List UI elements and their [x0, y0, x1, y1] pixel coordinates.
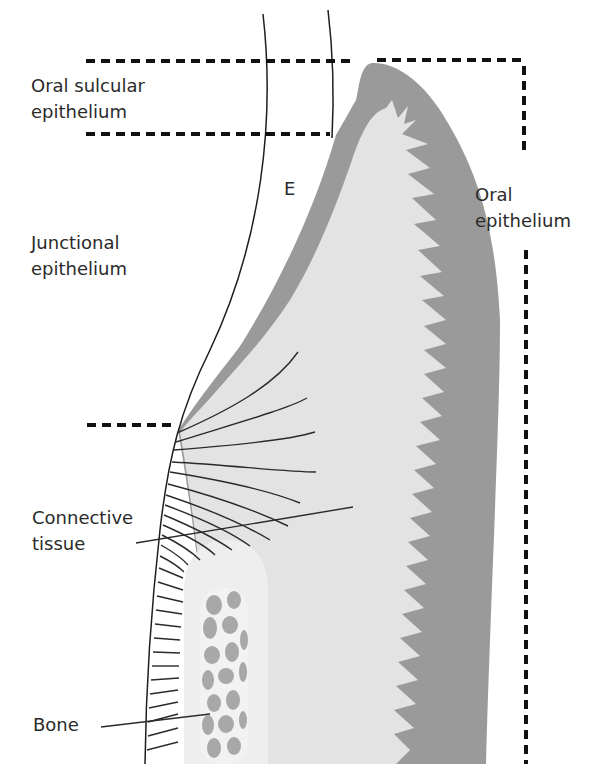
- label-line: epithelium: [31, 99, 145, 125]
- connective-tissue-label: Connective tissue: [32, 505, 133, 557]
- label-line: Bone: [33, 712, 79, 738]
- label-line: Oral sulcular: [31, 73, 145, 99]
- label-line: epithelium: [475, 208, 571, 234]
- bone-trabeculae: [200, 588, 248, 764]
- label-line: tissue: [32, 531, 133, 557]
- bone-label: Bone: [33, 712, 79, 738]
- label-line: Junctional: [31, 230, 127, 256]
- label-line: Oral: [475, 182, 571, 208]
- label-line: epithelium: [31, 256, 127, 282]
- enamel-label: E: [284, 176, 295, 202]
- junctional-epithelium-label: Junctional epithelium: [31, 230, 127, 282]
- oral-sulcular-epithelium-label: Oral sulcular epithelium: [31, 73, 145, 125]
- oral-epithelium-label: Oral epithelium: [475, 182, 571, 234]
- label-line: Connective: [32, 505, 133, 531]
